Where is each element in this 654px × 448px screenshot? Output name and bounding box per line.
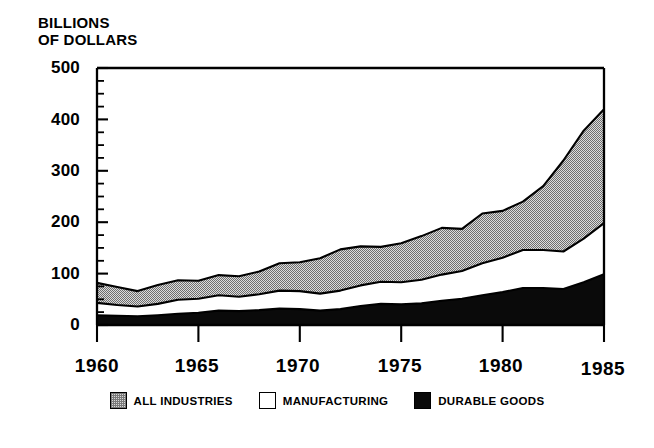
- stacked-area-series: [97, 109, 604, 325]
- chart-legend: ALL INDUSTRIES MANUFACTURING DURABLE GOO…: [0, 392, 654, 409]
- legend-label-manufacturing: MANUFACTURING: [283, 395, 388, 407]
- chart-root: BILLIONSOF DOLLARS 500 400 300 200 100 0…: [0, 0, 654, 448]
- legend-item-all-industries: ALL INDUSTRIES: [110, 392, 233, 409]
- legend-item-manufacturing: MANUFACTURING: [259, 392, 388, 409]
- x-axis-ticks: [97, 325, 604, 342]
- plot-area: [0, 0, 654, 448]
- all-industries-swatch: [110, 392, 127, 409]
- durable-goods-swatch: [414, 392, 431, 409]
- legend-label-durable-goods: DURABLE GOODS: [438, 395, 544, 407]
- manufacturing-swatch: [259, 392, 276, 409]
- legend-item-durable-goods: DURABLE GOODS: [414, 392, 544, 409]
- legend-label-all-industries: ALL INDUSTRIES: [134, 395, 233, 407]
